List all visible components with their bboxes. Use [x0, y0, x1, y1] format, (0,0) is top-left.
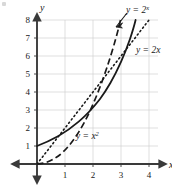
- x-axis-label: x: [168, 159, 172, 170]
- y-tick-label-6: 6: [26, 51, 31, 61]
- y-axis-label: y: [39, 2, 45, 13]
- y-tick-label-1: 1: [26, 141, 31, 151]
- x-tick-label-3: 3: [119, 170, 124, 180]
- graph-figure: 1 2 3 4 5 6 7 8 1 2 3 4 y x: [0, 0, 172, 191]
- x-tick-labels: 1 2 3 4: [63, 170, 152, 180]
- curve-label-2x: y = 2x: [135, 45, 161, 55]
- y-tick-label-8: 8: [26, 15, 31, 25]
- x-tick-label-4: 4: [147, 170, 152, 180]
- y-tick-label-7: 7: [26, 33, 31, 43]
- leader-arrow-to-2-to-the-x: [116, 13, 127, 28]
- x-tick-label-2: 2: [91, 170, 96, 180]
- curve-label-x-squared-text: y = x: [75, 131, 96, 141]
- y-tick-labels: 1 2 3 4 5 6 7 8: [26, 15, 31, 151]
- curve-label-2-to-the-x: y = 2x: [125, 4, 149, 16]
- y-tick-label-2: 2: [26, 123, 31, 133]
- curve-label-2-to-the-x-text: y = 2: [125, 5, 146, 15]
- y-tick-label-4: 4: [26, 87, 31, 97]
- y-tick-label-5: 5: [26, 69, 31, 79]
- curve-label-2-to-the-x-exponent: x: [145, 4, 149, 11]
- curve-label-2x-text: y = 2x: [135, 45, 161, 55]
- curve-label-x-squared: y = x2: [75, 130, 100, 142]
- axes: [12, 14, 166, 183]
- x-tick-label-1: 1: [63, 170, 68, 180]
- y-tick-label-3: 3: [26, 105, 31, 115]
- coordinate-plot: 1 2 3 4 5 6 7 8 1 2 3 4 y x: [0, 0, 172, 191]
- curve-label-x-squared-exponent: 2: [96, 130, 100, 137]
